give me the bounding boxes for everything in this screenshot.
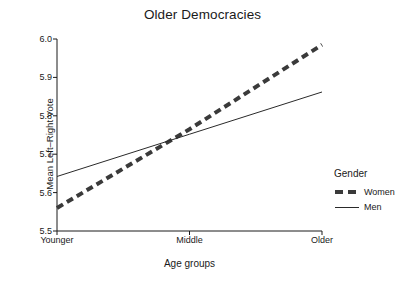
plot-area [0,0,405,287]
legend: Gender WomenMen [334,168,405,215]
legend-title: Gender [334,168,405,179]
legend-entries: WomenMen [334,185,405,213]
series-line-women [57,45,322,208]
legend-item-label: Women [364,187,395,197]
legend-swatch-icon [334,202,360,212]
series-line-men [57,92,322,176]
legend-item-label: Men [364,202,382,212]
legend-swatch-icon [334,187,360,197]
chart-container: Older Democracies Mean Left–Right Vote 5… [0,0,405,287]
legend-item-men[interactable]: Men [334,200,405,213]
legend-item-women[interactable]: Women [334,185,405,198]
